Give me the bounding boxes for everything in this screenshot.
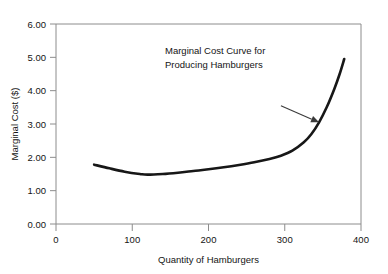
callout-line-2: Producing Hamburgers xyxy=(165,59,263,70)
y-tick-label-1: 1.00 xyxy=(28,185,47,196)
y-tick-label-2: 2.00 xyxy=(28,152,47,163)
x-tick-label-100: 100 xyxy=(124,234,140,245)
x-tick-label-400: 400 xyxy=(353,234,369,245)
x-tick-label-300: 300 xyxy=(277,234,293,245)
y-tick-label-5: 5.00 xyxy=(28,52,47,63)
marginal-cost-chart-figure: 6.00 5.00 4.00 3.00 2.00 1.00 0.00 0 100… xyxy=(0,0,388,274)
y-tick-label-0: 0.00 xyxy=(28,219,47,230)
x-axis-title: Quantity of Hamburgers xyxy=(158,254,259,265)
y-tick-label-3: 3.00 xyxy=(28,119,47,130)
y-tick-label-4: 4.00 xyxy=(28,85,47,96)
y-axis-title: Marginal Cost ($) xyxy=(9,88,20,161)
callout-line-1: Marginal Cost Curve for xyxy=(165,45,265,56)
x-tick-label-200: 200 xyxy=(201,234,217,245)
chart-canvas: 6.00 5.00 4.00 3.00 2.00 1.00 0.00 0 100… xyxy=(0,0,388,274)
x-tick-label-0: 0 xyxy=(53,234,58,245)
chart-background xyxy=(0,0,388,274)
y-tick-label-6: 6.00 xyxy=(28,19,47,30)
